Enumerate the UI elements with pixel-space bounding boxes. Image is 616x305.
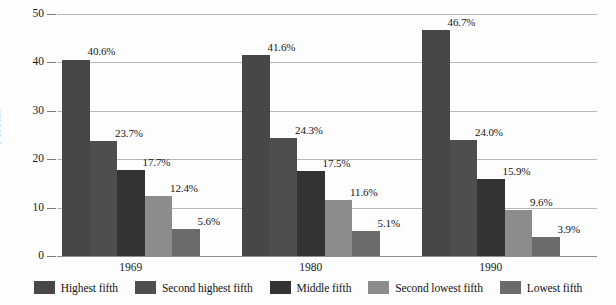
- y-axis-title: Percent: [0, 109, 2, 145]
- bar-value-label: 46.7%: [448, 17, 476, 30]
- legend-swatch-icon: [135, 281, 156, 294]
- legend-item[interactable]: Second lowest fifth: [368, 281, 483, 294]
- gridline-30: [57, 111, 597, 112]
- bar: [325, 200, 353, 256]
- y-tick-label: 20: [10, 153, 44, 165]
- legend-item[interactable]: Second highest fifth: [135, 281, 253, 294]
- bar: [450, 140, 478, 256]
- y-tick-label: 40: [10, 57, 44, 69]
- bar-value-label: 11.6%: [350, 187, 378, 200]
- bar: [422, 30, 450, 256]
- bar-value-label: 9.6%: [530, 197, 553, 210]
- bar: [297, 171, 325, 256]
- bar-value-label: 12.4%: [170, 183, 198, 196]
- bar: [145, 196, 173, 256]
- bar: [532, 237, 560, 256]
- x-axis-label-1969: 1969: [119, 261, 142, 273]
- bar-value-label: 3.9%: [558, 224, 581, 237]
- bar-value-label: 23.7%: [115, 128, 143, 141]
- bar-value-label: 5.1%: [378, 218, 401, 231]
- bar: [477, 179, 505, 256]
- y-tick-mark: [47, 111, 56, 112]
- x-axis-label-1990: 1990: [479, 261, 502, 273]
- bar: [505, 210, 533, 256]
- bar: [172, 229, 200, 256]
- bar-value-label: 17.7%: [143, 157, 171, 170]
- y-tick-mark: [47, 62, 56, 63]
- legend-label: Second lowest fifth: [395, 282, 483, 294]
- bar: [270, 138, 298, 256]
- bar: [62, 60, 90, 257]
- gridline-50: [57, 14, 597, 15]
- y-tick-mark: [47, 159, 56, 160]
- y-tick-label: 10: [10, 202, 44, 214]
- legend-label: Lowest fifth: [527, 282, 582, 294]
- y-tick-mark: [47, 256, 56, 257]
- bar-chart: Percent 01020304050 40.6%23.7%17.7%12.4%…: [0, 0, 616, 305]
- bar-value-label: 17.5%: [323, 158, 351, 171]
- legend-swatch-icon: [368, 281, 389, 294]
- plot-area: 40.6%23.7%17.7%12.4%5.6%41.6%24.3%17.5%1…: [57, 14, 597, 256]
- bar: [242, 55, 270, 256]
- y-tick-label: 30: [10, 105, 44, 117]
- legend-swatch-icon: [270, 281, 291, 294]
- y-tick-label: 0: [10, 250, 44, 262]
- bar-value-label: 41.6%: [268, 42, 296, 55]
- legend-label: Second highest fifth: [162, 282, 253, 294]
- bar: [90, 141, 118, 256]
- legend: Highest fifthSecond highest fifthMiddle …: [0, 281, 616, 294]
- legend-item[interactable]: Middle fifth: [270, 281, 352, 294]
- gridline-40: [57, 62, 597, 63]
- bar-value-label: 5.6%: [198, 216, 221, 229]
- bar-value-label: 24.0%: [475, 127, 503, 140]
- x-axis-label-1980: 1980: [299, 261, 322, 273]
- gridline-0: [57, 256, 597, 257]
- y-tick-mark: [47, 208, 56, 209]
- legend-swatch-icon: [34, 281, 55, 294]
- y-tick-mark: [47, 14, 56, 15]
- bar-value-label: 15.9%: [503, 166, 531, 179]
- legend-label: Highest fifth: [61, 282, 118, 294]
- y-tick-label: 50: [10, 8, 44, 20]
- bar-value-label: 24.3%: [295, 125, 323, 138]
- bar: [117, 170, 145, 256]
- legend-swatch-icon: [500, 281, 521, 294]
- legend-item[interactable]: Lowest fifth: [500, 281, 582, 294]
- legend-item[interactable]: Highest fifth: [34, 281, 118, 294]
- bar: [352, 231, 380, 256]
- bar-value-label: 40.6%: [88, 46, 116, 59]
- legend-label: Middle fifth: [297, 282, 352, 294]
